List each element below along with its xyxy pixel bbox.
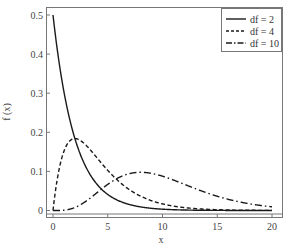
x-tick-label: 20 — [267, 221, 277, 232]
chi-square-density-chart: 00.10.20.30.40.5 05101520 x f (x) df = 2… — [0, 0, 287, 248]
x-axis-ticks: 05101520 — [51, 214, 278, 232]
curve-df-4 — [53, 139, 272, 211]
legend-label: df = 2 — [250, 14, 274, 25]
y-tick-label: 0.3 — [31, 88, 44, 99]
x-tick-label: 10 — [158, 221, 168, 232]
y-tick-label: 0.2 — [31, 127, 44, 138]
y-tick-label: 0.5 — [31, 10, 44, 21]
legend-label: df = 10 — [250, 38, 279, 49]
x-tick-label: 5 — [105, 221, 110, 232]
x-tick-label: 0 — [51, 221, 56, 232]
legend: df = 2 df = 4 df = 10 — [222, 9, 282, 52]
y-axis-label: f (x) — [1, 103, 13, 121]
y-tick-label: 0.4 — [31, 49, 44, 60]
x-axis-label: x — [159, 234, 164, 245]
y-axis-ticks: 00.10.20.30.40.5 — [31, 10, 51, 217]
y-tick-label: 0.1 — [31, 166, 44, 177]
legend-label: df = 4 — [250, 26, 274, 37]
x-tick-label: 15 — [212, 221, 222, 232]
y-tick-label: 0 — [38, 205, 43, 216]
curve-df-10 — [53, 172, 272, 210]
